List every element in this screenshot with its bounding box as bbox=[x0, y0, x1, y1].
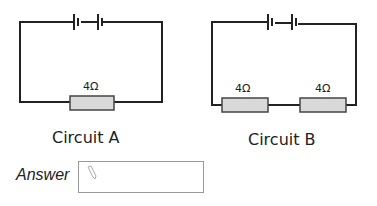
pencil-icon bbox=[85, 165, 99, 181]
resistor-a1 bbox=[70, 96, 114, 110]
resistor-a1-label: 4Ω bbox=[83, 80, 98, 93]
resistor-b2 bbox=[300, 98, 346, 112]
resistor-b1 bbox=[222, 98, 268, 112]
answer-label: Answer bbox=[16, 166, 69, 184]
circuit-a-label: Circuit A bbox=[52, 128, 120, 147]
answer-input[interactable] bbox=[78, 161, 204, 193]
circuit-a bbox=[20, 14, 162, 110]
circuit-b bbox=[212, 14, 356, 112]
resistor-b2-label: 4Ω bbox=[315, 82, 330, 95]
resistor-b1-label: 4Ω bbox=[235, 82, 250, 95]
circuit-b-label: Circuit B bbox=[248, 130, 316, 149]
battery-icon-b bbox=[268, 14, 296, 30]
battery-icon-a bbox=[74, 14, 102, 30]
